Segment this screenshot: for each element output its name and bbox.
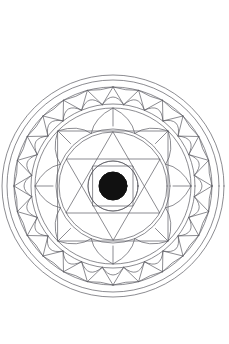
mandala-drawing	[0, 0, 229, 344]
center-disc-top	[99, 172, 127, 200]
mandala-canvas	[0, 0, 229, 344]
